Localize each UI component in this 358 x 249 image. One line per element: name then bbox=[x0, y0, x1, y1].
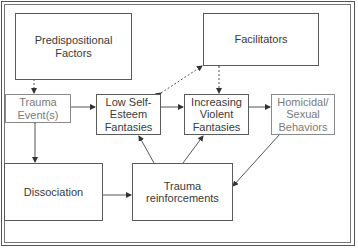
node-increasing-violent-fantasies: Increasing Violent Fantasies bbox=[184, 94, 249, 135]
node-label: Trauma Event(s) bbox=[18, 96, 59, 121]
edge-trauma-reinforcements-to-increasing-violent bbox=[183, 136, 203, 163]
edge-homicidal-to-trauma-reinforcements bbox=[233, 134, 280, 186]
node-homicidal-sexual-behaviors: Homicidal/ Sexual Behaviors bbox=[271, 94, 335, 135]
node-label: Homicidal/ Sexual Behaviors bbox=[277, 96, 328, 134]
node-label: Low Self- Esteem Fantasies bbox=[105, 96, 153, 134]
node-trauma-events: Trauma Event(s) bbox=[5, 94, 71, 123]
node-label: Predispositional Factors bbox=[35, 34, 113, 59]
edge-low-self-esteem-facilitators bbox=[161, 66, 202, 93]
node-trauma-reinforcements: Trauma reinforcements bbox=[132, 163, 233, 221]
node-label: Trauma reinforcements bbox=[146, 180, 219, 205]
node-label: Dissociation bbox=[24, 186, 83, 199]
node-facilitators: Facilitators bbox=[203, 13, 319, 66]
edge-trauma-reinforcements-to-low-self-esteem bbox=[139, 136, 154, 163]
node-dissociation: Dissociation bbox=[4, 163, 103, 221]
node-label: Facilitators bbox=[234, 33, 287, 46]
node-low-self-esteem-fantasies: Low Self- Esteem Fantasies bbox=[96, 94, 161, 135]
node-predispositional-factors: Predispositional Factors bbox=[15, 13, 132, 80]
node-label: Increasing Violent Fantasies bbox=[191, 96, 242, 134]
